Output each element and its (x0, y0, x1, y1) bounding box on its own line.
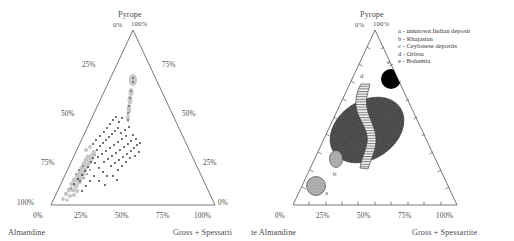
apex-label-pyrope: Pyrope (118, 10, 142, 19)
field-label-a: a (325, 189, 328, 196)
bottom-tick-25: 25% (316, 212, 329, 220)
bottom-tick-50: 50% (357, 212, 370, 220)
apex-pct-left: 0% (355, 21, 364, 28)
apex-label-pyrope: Pyrope (360, 10, 384, 19)
bottom-tick-25: 25% (74, 212, 87, 220)
bottom-tick-50: 50% (115, 212, 128, 220)
right-axis-tick-50: 50% (182, 110, 195, 118)
bottom-tick-75: 75% (398, 212, 411, 220)
cluster-almandine-light (61, 145, 96, 202)
left-axis-tick-75: 75% (41, 159, 54, 167)
legend-item-c: c - Ceylonese deposits (398, 42, 470, 50)
axis-label-gross-spessartite: Gross + Spessartite (412, 228, 477, 237)
bottom-tick-0: 0% (275, 212, 285, 220)
apex-pct-right: 100% (131, 20, 147, 27)
bottom-tick-100: 100% (436, 212, 453, 220)
bottom-tick-75: 75% (156, 212, 169, 220)
corner-pct-bottom-right: 0% (218, 199, 228, 207)
ternary-plot-right: Pyrope 0% 100% 0% 25% 50% 75% 100% te Al… (257, 0, 514, 241)
field-label-d: d (360, 72, 364, 79)
axis-label-almandine: te Almandine (251, 228, 296, 237)
scatter-layer (61, 74, 141, 202)
left-axis-tick-50: 50% (61, 110, 74, 118)
legend-item-a: a - unknown Indian deposit (398, 27, 470, 35)
cluster-pyrope-streak (126, 74, 137, 122)
bottom-tick-100: 100% (194, 212, 211, 220)
legend-item-e: e - Bohemia (398, 57, 470, 65)
field-layer (307, 69, 417, 196)
corner-pct-bottom-left: 100% (17, 199, 34, 207)
field-b-rhajastan (330, 151, 343, 168)
legend-item-d: d - Orissa (398, 50, 470, 58)
left-axis-tick-25: 25% (82, 61, 95, 69)
right-axis-tick-25: 25% (203, 159, 216, 167)
field-label-c: c (387, 142, 390, 149)
legend-item-b: b - Rhajastan (398, 35, 470, 43)
apex-pct-right: 100% (373, 20, 389, 27)
ternary-right-svg (257, 0, 514, 241)
legend: a - unknown Indian deposit b - Rhajastan… (398, 27, 470, 65)
axis-label-almandine: Almandine (8, 228, 45, 237)
ternary-plot-left: Pyrope 0% 100% 25% 50% 75% 75% 50% 25% 1… (0, 0, 257, 241)
field-label-b: b (333, 170, 337, 177)
field-a-unknown-indian (307, 177, 326, 196)
field-label-e: e (387, 58, 390, 65)
axis-label-gross-spessartite: Gross + Spessarti (173, 228, 232, 237)
apex-pct-left: 0% (113, 21, 122, 28)
bottom-tick-0: 0% (33, 212, 43, 220)
right-axis-tick-75: 75% (162, 61, 175, 69)
